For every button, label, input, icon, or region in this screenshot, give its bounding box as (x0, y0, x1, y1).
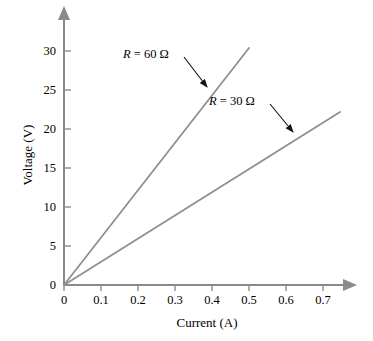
x-tick-label: 0 (61, 294, 67, 307)
series-annotation-60-ohm: R = 60 Ω (123, 48, 169, 61)
y-axis-ticks (64, 51, 71, 285)
leader-arrow-60-ohm (184, 57, 207, 87)
y-axis-title: Voltage (V) (21, 125, 34, 186)
series-annotation-30-ohm-var: R (209, 94, 217, 108)
x-tick-label: 0.2 (130, 294, 146, 307)
x-axis-title: Current (A) (176, 316, 237, 329)
y-tick-label: 30 (33, 45, 56, 58)
y-tick-label: 20 (33, 123, 56, 136)
y-tick-label: 25 (33, 84, 56, 97)
x-tick-label: 0.3 (167, 294, 183, 307)
series-line-30-ohm (64, 112, 340, 285)
x-tick-label: 0.7 (315, 294, 331, 307)
y-tick-label: 15 (33, 162, 56, 175)
x-tick-label: 0.1 (93, 294, 109, 307)
x-tick-label: 0.5 (241, 294, 257, 307)
y-tick-label: 5 (40, 240, 56, 253)
series-annotation-30-ohm: R = 30 Ω (209, 95, 255, 108)
x-tick-label: 0.4 (204, 294, 220, 307)
chart-figure: 0 0.1 0.2 0.3 0.4 0.5 0.6 0.7 0 5 10 15 … (0, 0, 373, 341)
x-tick-label: 0.6 (278, 294, 294, 307)
leader-arrow-30-ohm (270, 104, 293, 132)
series-line-60-ohm (64, 48, 249, 285)
series-annotation-30-ohm-rest: = 30 Ω (217, 94, 255, 108)
series-annotation-60-ohm-var: R (123, 47, 131, 61)
series-annotation-60-ohm-rest: = 60 Ω (131, 47, 169, 61)
y-tick-label: 10 (33, 201, 56, 214)
y-tick-label: 0 (40, 279, 56, 292)
